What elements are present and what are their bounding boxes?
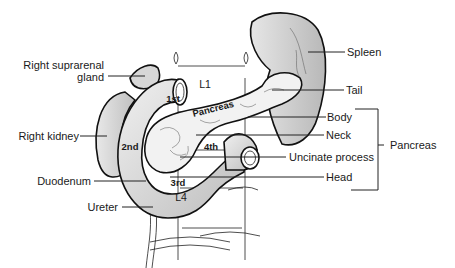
pancreas-anatomy-diagram: 1st 2nd 3rd 4th Pancreas L1 L4 Right sup…	[0, 0, 455, 268]
label-right-kidney: Right kidney	[18, 130, 79, 142]
label-ureter: Ureter	[87, 201, 118, 213]
label-spleen: Spleen	[347, 46, 381, 58]
label-neck: Neck	[326, 129, 352, 141]
label-uncinate-process: Uncinate process	[289, 151, 374, 163]
label-right-suprarenal-gland-line1: Right suprarenal	[23, 59, 104, 71]
vertebra-l1-label: L1	[199, 78, 211, 90]
label-right-suprarenal-gland-line2: gland	[77, 71, 104, 83]
duodenum-part-3rd-label: 3rd	[171, 177, 186, 188]
vertebra-l4-label: L4	[175, 191, 187, 203]
ureter	[146, 210, 157, 268]
duodenum-part-1st-label: 1st	[166, 93, 181, 104]
label-body: Body	[327, 111, 353, 123]
pancreas-bracket	[351, 109, 384, 190]
label-pancreas-group: Pancreas	[390, 139, 437, 151]
label-duodenum: Duodenum	[37, 175, 91, 187]
jejunum-opening	[241, 147, 259, 169]
duodenum-part-2nd-label: 2nd	[122, 141, 139, 152]
label-tail: Tail	[346, 84, 363, 96]
duodenum-part-4th-label: 4th	[204, 141, 218, 152]
label-head: Head	[326, 171, 352, 183]
